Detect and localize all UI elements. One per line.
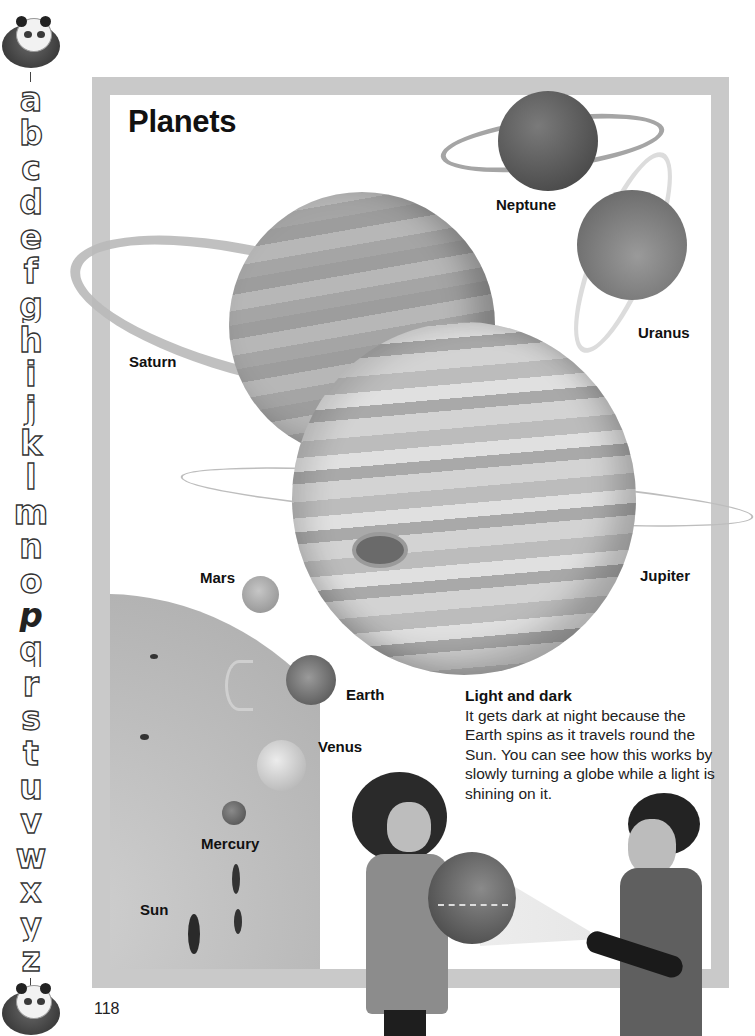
- boy-face: [628, 819, 676, 875]
- mercury-label: Mercury: [201, 835, 259, 852]
- panda-icon-top: [2, 18, 60, 68]
- girl-face: [387, 802, 431, 852]
- venus-planet: [257, 740, 306, 791]
- solar-prominence: [225, 660, 253, 711]
- boy-figure: [600, 793, 702, 1036]
- info-body: It gets dark at night because the Earth …: [465, 706, 715, 804]
- alphabet-letter-d: d: [6, 185, 56, 221]
- alphabet-letter-e: e: [6, 220, 56, 256]
- alphabet-letter-f: f: [6, 254, 56, 290]
- alphabet-letter-q: q: [6, 632, 56, 668]
- venus-label: Venus: [318, 738, 362, 755]
- girl-legs: [384, 1010, 426, 1036]
- earth-planet: [286, 655, 336, 705]
- alphabet-strip: abcdefghijklmnopqrstuvwxyz: [6, 72, 56, 992]
- neptune-label: Neptune: [496, 196, 556, 213]
- jupiter-planet: [292, 322, 636, 675]
- globe-icon: [428, 852, 516, 944]
- alphabet-letter-r: r: [6, 667, 56, 703]
- alphabet-letter-z: z: [6, 942, 56, 978]
- page-number: 118: [94, 1000, 120, 1018]
- alphabet-letter-j: j: [6, 392, 56, 428]
- info-heading: Light and dark: [465, 686, 715, 706]
- alphabet-letter-u: u: [6, 770, 56, 806]
- alphabet-letter-s: s: [6, 701, 56, 737]
- alphabet-letter-k: k: [6, 426, 56, 462]
- alphabet-letter-t: t: [6, 736, 56, 772]
- panda-icon-bottom: [2, 985, 60, 1035]
- info-box: Light and dark It gets dark at night bec…: [465, 686, 715, 803]
- page-title: Planets: [128, 104, 236, 140]
- uranus-planet: [577, 190, 687, 300]
- sun-label: Sun: [140, 901, 168, 918]
- alphabet-letter-i: i: [6, 357, 56, 393]
- mars-label: Mars: [200, 569, 235, 586]
- mars-planet: [242, 576, 279, 613]
- saturn-label: Saturn: [129, 353, 177, 370]
- alphabet-letter-h: h: [6, 323, 56, 359]
- uranus-label: Uranus: [638, 324, 690, 341]
- alphabet-letter-b: b: [6, 116, 56, 152]
- alphabet-letter-x: x: [6, 873, 56, 909]
- neptune-planet: [498, 91, 598, 191]
- great-red-spot: [352, 532, 408, 568]
- alphabet-letter-n: n: [6, 529, 56, 565]
- alphabet-letter-p: p: [6, 598, 56, 634]
- alphabet-letter-o: o: [6, 564, 56, 600]
- earth-label: Earth: [346, 686, 384, 703]
- alphabet-letter-m: m: [6, 495, 56, 531]
- mercury-planet: [222, 801, 246, 825]
- alphabet-letter-c: c: [6, 151, 56, 187]
- alphabet-letter-l: l: [6, 460, 56, 496]
- alphabet-letter-g: g: [6, 288, 56, 324]
- alphabet-letter-y: y: [6, 908, 56, 944]
- alphabet-letter-a: a: [6, 82, 56, 118]
- jupiter-label: Jupiter: [640, 567, 690, 584]
- alphabet-letter-v: v: [6, 804, 56, 840]
- alphabet-letter-w: w: [6, 839, 56, 875]
